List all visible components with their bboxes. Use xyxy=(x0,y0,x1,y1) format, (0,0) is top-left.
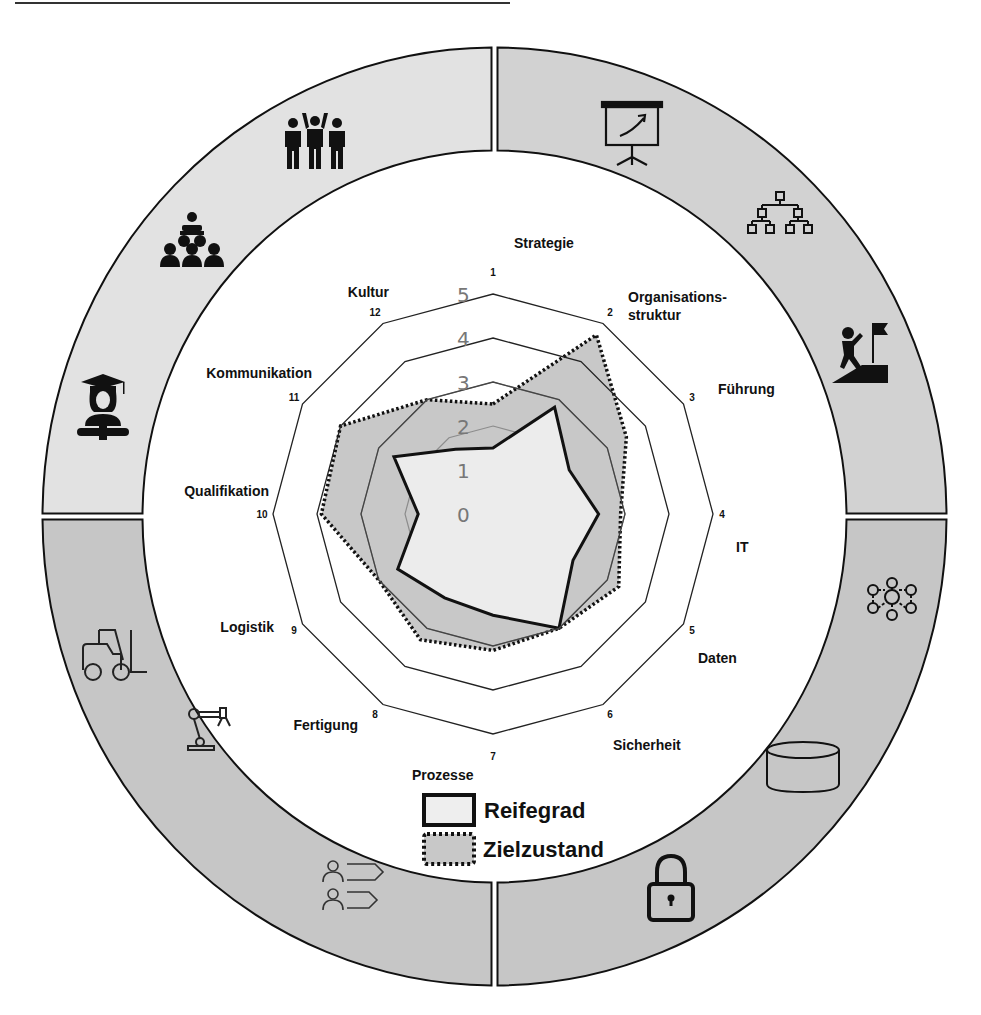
scale-tick-4: 4 xyxy=(457,327,470,351)
legend: Reifegrad Zielzustand xyxy=(424,795,604,864)
axis-label-11: Kommunikation xyxy=(206,365,312,381)
axis-number-6: 6 xyxy=(607,709,613,720)
scale-tick-0: 0 xyxy=(457,503,470,527)
axis-number-7: 7 xyxy=(490,751,496,762)
maturity-model-diagram: 012345 1Strategie2Organisations-struktur… xyxy=(0,0,981,1015)
axis-label-8: Fertigung xyxy=(293,717,358,733)
axis-number-11: 11 xyxy=(289,392,300,403)
axis-label-4: IT xyxy=(736,539,749,555)
axis-label-12: Kultur xyxy=(348,284,390,300)
scale-tick-2: 2 xyxy=(457,415,470,439)
axis-number-12: 12 xyxy=(369,307,381,318)
scale-tick-3: 3 xyxy=(457,371,470,395)
axis-number-3: 3 xyxy=(689,392,695,403)
scale-tick-5: 5 xyxy=(457,283,470,307)
axis-label-6: Sicherheit xyxy=(613,737,681,753)
legend-label-reifegrad: Reifegrad xyxy=(484,798,585,823)
legend-swatch-reifegrad xyxy=(424,795,474,825)
axis-number-5: 5 xyxy=(689,625,695,636)
legend-swatch-zielzustand xyxy=(424,834,474,864)
radar-chart: 012345 1Strategie2Organisations-struktur… xyxy=(184,235,775,783)
axis-label-9: Logistik xyxy=(220,619,274,635)
legend-label-zielzustand: Zielzustand xyxy=(483,837,604,862)
scale-tick-1: 1 xyxy=(457,459,470,483)
axis-label-5: Daten xyxy=(698,650,737,666)
axis-number-9: 9 xyxy=(291,625,297,636)
axis-label-1: Strategie xyxy=(514,235,574,251)
axis-number-4: 4 xyxy=(719,509,725,520)
axis-number-10: 10 xyxy=(256,509,268,520)
axis-label-10: Qualifikation xyxy=(184,483,269,499)
axis-label-7: Prozesse xyxy=(412,767,474,783)
axis-label-3: Führung xyxy=(718,381,775,397)
axis-number-2: 2 xyxy=(607,307,613,318)
axis-number-1: 1 xyxy=(490,267,496,278)
axis-number-8: 8 xyxy=(372,709,378,720)
axis-label-2: Organisations-struktur xyxy=(628,289,727,323)
